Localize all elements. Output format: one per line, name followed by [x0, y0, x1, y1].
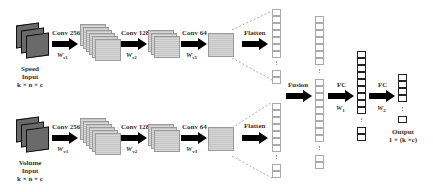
arrow-icon [369, 91, 395, 101]
arrow-icon [52, 133, 78, 143]
ellipsis-icon [276, 61, 278, 65]
weight-label: Ws2 [126, 51, 137, 60]
arrow-icon [242, 133, 268, 143]
weight-label: W2 [377, 104, 386, 113]
weight-label: W1 [336, 104, 345, 113]
feature-map [154, 130, 180, 152]
arrow-icon [328, 91, 354, 101]
output-shape: 1 × (k ×c) [383, 136, 423, 144]
feature-map [208, 33, 234, 57]
input-name: Speed [12, 65, 48, 73]
input-shape: k × n × c [12, 175, 48, 183]
flatten-label: Flatten [244, 29, 265, 37]
arrow-icon [286, 91, 312, 101]
conv128-label: Conv 128 [121, 29, 149, 37]
feature-map [154, 36, 180, 58]
input-shape: k × n × c [12, 81, 48, 89]
arrow-icon [242, 39, 268, 49]
weight-label: Ws1 [57, 51, 68, 60]
output-label: Output 1 × (k ×c) [383, 128, 423, 144]
feature-map [95, 133, 121, 155]
arrow-icon [181, 133, 207, 143]
conv64-label: Conv 64 [182, 123, 207, 131]
ellipsis-icon [402, 107, 404, 111]
fusion-label: Fusion [288, 81, 308, 89]
feature-map [95, 39, 121, 61]
flatten-label: Flatten [244, 122, 265, 130]
ellipsis-icon [319, 146, 321, 150]
volume-input-label: Volume Input k × n × c [12, 159, 48, 183]
ellipsis-icon [319, 69, 321, 73]
conv256-label: Conv 256 [52, 29, 80, 37]
fc1-label: FC [337, 81, 346, 89]
weight-label: Wv1 [57, 145, 68, 154]
input-map [26, 32, 49, 58]
ellipsis-icon [361, 118, 363, 122]
input-word: Input [12, 167, 48, 175]
conv64-label: Conv 64 [182, 29, 207, 37]
input-name: Volume [12, 159, 48, 167]
input-map [26, 126, 49, 152]
conv128-label: Conv 128 [121, 123, 149, 131]
arrow-icon [52, 39, 78, 49]
arrow-icon [181, 39, 207, 49]
speed-input-label: Speed Input k × n × c [12, 65, 48, 89]
weight-label: Wv3 [186, 145, 197, 154]
ellipsis-icon [276, 155, 278, 159]
feature-map [208, 127, 234, 151]
fc2-label: FC [378, 81, 387, 89]
weight-label: Wv2 [126, 145, 137, 154]
input-word: Input [12, 73, 48, 81]
weight-label: Ws3 [186, 51, 197, 60]
arrow-icon [121, 133, 147, 143]
conv256-label: Conv 256 [52, 123, 80, 131]
output-name: Output [383, 128, 423, 136]
arrow-icon [121, 39, 147, 49]
